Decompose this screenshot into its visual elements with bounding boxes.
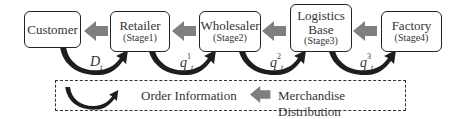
flow-label-q1: q1t	[180, 54, 193, 72]
flow-symbol: q	[180, 55, 187, 70]
node-factory: Factory (Stage4)	[381, 11, 442, 52]
node-stage: (Stage3)	[304, 36, 338, 47]
flow-symbol: q	[270, 55, 277, 70]
merchandise-arrow-retailer-to-customer	[84, 21, 108, 41]
merchandise-arrow-wholesaler-to-retailer	[172, 21, 196, 41]
node-stage: (Stage1)	[123, 33, 157, 44]
merchandise-arrow-logistics-to-wholesaler	[262, 21, 286, 41]
flow-superscript: 1	[187, 52, 191, 61]
flow-superscript: 3	[367, 52, 371, 61]
legend: Order Information Merchandise Distributi…	[55, 80, 406, 111]
node-title: Factory	[392, 19, 432, 33]
legend-merchandise-distribution: Merchandise Distribution	[278, 88, 405, 119]
legend-order-information: Order Information	[141, 88, 237, 104]
flow-superscript: 2	[277, 52, 281, 61]
flow-label-q3: q3t	[360, 54, 373, 72]
merchandise-arrow-factory-to-logistics	[353, 21, 377, 41]
node-title: Logistics Base	[296, 9, 346, 36]
node-stage: (Stage2)	[213, 33, 247, 44]
node-title: Customer	[27, 23, 78, 37]
flow-label-q2: q2t	[270, 54, 283, 72]
node-logistics-base: Logistics Base (Stage3)	[290, 4, 352, 52]
node-title: Wholesaler	[200, 19, 259, 33]
node-stage: (Stage4)	[395, 33, 429, 44]
node-retailer: Retailer (Stage1)	[110, 11, 170, 52]
node-customer: Customer	[24, 11, 81, 48]
node-title: Retailer	[119, 19, 160, 33]
flow-subscript: t	[100, 63, 102, 72]
flow-subscript: t	[191, 63, 193, 72]
flow-symbol: D	[90, 54, 100, 69]
flow-subscript: t	[371, 63, 373, 72]
flow-symbol: q	[360, 55, 367, 70]
node-wholesaler: Wholesaler (Stage2)	[199, 11, 261, 52]
flow-subscript: t	[281, 63, 283, 72]
flow-label-demand: Dt	[90, 54, 102, 72]
